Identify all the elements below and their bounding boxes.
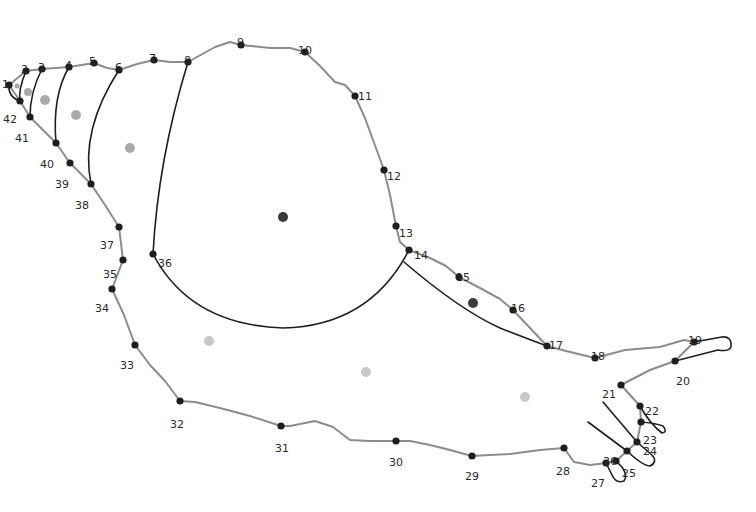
landmark-label-16: 16 bbox=[511, 302, 525, 315]
centroid-dot-10 bbox=[520, 392, 530, 402]
centroid-dot-2 bbox=[24, 88, 32, 96]
landmark-label-13: 13 bbox=[399, 227, 413, 240]
landmark-point-31 bbox=[277, 422, 284, 429]
centroid-dot-5 bbox=[125, 143, 135, 153]
landmark-point-22 bbox=[636, 402, 643, 409]
landmark-label-31: 31 bbox=[275, 442, 289, 455]
landmark-label-30: 30 bbox=[389, 456, 403, 469]
landmark-label-22: 22 bbox=[645, 405, 659, 418]
landmark-point-32 bbox=[176, 397, 183, 404]
landmark-label-42: 42 bbox=[3, 113, 17, 126]
landmark-point-24 bbox=[633, 438, 640, 445]
landmark-label-10: 10 bbox=[298, 44, 312, 57]
landmark-label-4: 4 bbox=[65, 59, 72, 72]
landmark-label-37: 37 bbox=[100, 239, 114, 252]
landmark-point-28 bbox=[560, 444, 567, 451]
centroid-dot-8 bbox=[204, 336, 214, 346]
partition-lines bbox=[9, 62, 731, 482]
landmark-label-35: 35 bbox=[103, 268, 117, 281]
landmark-label-41: 41 bbox=[15, 132, 29, 145]
landmark-label-40: 40 bbox=[40, 158, 54, 171]
landmark-point-29 bbox=[468, 452, 475, 459]
landmark-point-37 bbox=[115, 223, 122, 230]
partition-line-5 bbox=[89, 70, 119, 184]
landmark-label-19: 19 bbox=[688, 334, 702, 347]
landmark-label-26: 26 bbox=[603, 455, 617, 468]
landmark-label-39: 39 bbox=[55, 178, 69, 191]
landmark-label-7: 7 bbox=[149, 52, 156, 65]
partition-line-7 bbox=[153, 250, 409, 328]
landmark-point-25 bbox=[623, 447, 630, 454]
landmark-point-33 bbox=[131, 341, 138, 348]
landmark-label-27: 27 bbox=[591, 477, 605, 490]
centroid-dot-6 bbox=[278, 212, 288, 222]
landmark-label-14: 14 bbox=[414, 249, 428, 262]
specimen-outline bbox=[9, 42, 694, 465]
landmark-label-28: 28 bbox=[556, 465, 570, 478]
landmark-label-29: 29 bbox=[465, 470, 479, 483]
centroid-dot-9 bbox=[361, 367, 371, 377]
landmark-point-34 bbox=[108, 285, 115, 292]
landmark-labels: 1234567891011121314151617181920212223242… bbox=[2, 36, 702, 490]
landmark-point-39 bbox=[66, 159, 73, 166]
landmark-label-24: 24 bbox=[643, 445, 657, 458]
landmark-point-21 bbox=[617, 381, 624, 388]
landmark-point-35 bbox=[119, 256, 126, 263]
centroid-dot-4 bbox=[71, 110, 81, 120]
partition-line-6 bbox=[153, 62, 188, 254]
landmark-label-32: 32 bbox=[170, 418, 184, 431]
outline-path bbox=[9, 42, 694, 465]
landmark-label-34: 34 bbox=[95, 302, 109, 315]
landmark-point-40 bbox=[52, 139, 59, 146]
landmark-label-12: 12 bbox=[387, 170, 401, 183]
landmark-label-20: 20 bbox=[676, 375, 690, 388]
landmark-point-14 bbox=[405, 246, 412, 253]
landmark-label-33: 33 bbox=[120, 359, 134, 372]
landmark-label-1: 1 bbox=[2, 78, 9, 91]
landmark-point-23 bbox=[637, 418, 644, 425]
landmark-label-3: 3 bbox=[38, 61, 45, 74]
landmark-label-15: 15 bbox=[456, 271, 470, 284]
landmark-point-36 bbox=[149, 250, 156, 257]
landmark-label-17: 17 bbox=[549, 339, 563, 352]
landmark-point-42 bbox=[16, 97, 23, 104]
partition-line-4 bbox=[55, 67, 69, 143]
landmark-point-20 bbox=[671, 357, 678, 364]
landmark-label-25: 25 bbox=[622, 467, 636, 480]
landmark-label-21: 21 bbox=[602, 388, 616, 401]
centroid-dot-1 bbox=[15, 84, 20, 89]
landmark-point-41 bbox=[26, 113, 33, 120]
landmark-label-5: 5 bbox=[89, 55, 96, 68]
landmark-point-30 bbox=[392, 437, 399, 444]
landmark-label-2: 2 bbox=[21, 63, 28, 76]
landmark-label-18: 18 bbox=[591, 350, 605, 363]
centroid-dot-3 bbox=[40, 95, 50, 105]
landmark-label-9: 9 bbox=[237, 36, 244, 49]
landmark-point-38 bbox=[87, 180, 94, 187]
centroid-dot-7 bbox=[468, 298, 478, 308]
landmark-points bbox=[5, 41, 697, 466]
landmark-label-8: 8 bbox=[184, 54, 191, 67]
landmark-diagram: 1234567891011121314151617181920212223242… bbox=[0, 0, 756, 512]
landmark-label-38: 38 bbox=[75, 199, 89, 212]
landmark-label-6: 6 bbox=[115, 61, 122, 74]
landmark-label-11: 11 bbox=[358, 90, 372, 103]
landmark-label-36: 36 bbox=[158, 257, 172, 270]
